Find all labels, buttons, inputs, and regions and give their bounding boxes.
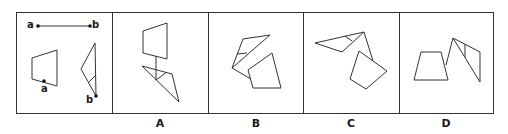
option-b-figure — [232, 35, 281, 88]
triangle-b-dot — [94, 94, 98, 98]
option-box-c[interactable] — [304, 13, 400, 114]
option-a-figure — [142, 23, 179, 102]
segment-start-label: a — [27, 19, 34, 30]
option-label-b[interactable]: B — [246, 117, 266, 130]
option-label-d[interactable]: D — [436, 117, 456, 130]
option-c-figure — [315, 32, 387, 89]
option-box-a[interactable] — [113, 13, 209, 114]
option-label-a[interactable]: A — [150, 117, 170, 130]
puzzle-figure — [0, 0, 508, 134]
point-a-dot — [36, 24, 40, 28]
option-box-b[interactable] — [209, 13, 304, 114]
triangle-shape — [81, 43, 96, 96]
segment-end-label: b — [92, 19, 99, 30]
triangle-inner-line — [88, 75, 96, 83]
quad-point-label: a — [41, 83, 48, 94]
option-d-figure — [414, 38, 480, 82]
triangle-point-label: b — [86, 94, 93, 105]
option-label-c[interactable]: C — [341, 117, 361, 130]
